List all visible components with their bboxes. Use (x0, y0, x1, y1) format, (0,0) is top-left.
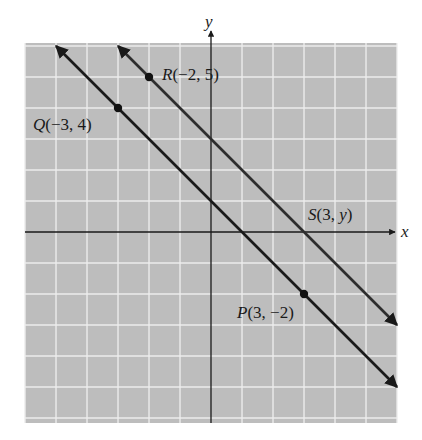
point-label-s-coords-open: (3, (317, 205, 340, 224)
point-label-q: Q(−3, 4) (33, 115, 92, 134)
point-label-p-coords: (3, −2) (247, 303, 293, 322)
point-label-p-letter: P (236, 303, 247, 322)
point-r-dot (145, 73, 153, 81)
point-label-r-letter: R (161, 65, 173, 84)
x-axis-label: x (400, 222, 409, 241)
point-q-dot (114, 104, 122, 112)
point-label-p: P(3, −2) (236, 303, 294, 322)
point-label-s: S(3, y) (308, 205, 352, 224)
point-label-q-letter: Q (33, 115, 45, 134)
y-axis-label: y (203, 12, 213, 31)
point-label-r-coords: (−2, 5) (172, 65, 218, 84)
point-p-dot (300, 290, 308, 298)
point-label-s-coords-close: ) (347, 205, 353, 224)
point-label-q-coords: (−3, 4) (45, 115, 91, 134)
point-label-r: R(−2, 5) (161, 65, 219, 84)
coordinate-plane-figure: x y R(−2, 5) Q(−3, 4) P(3, −2) S(3, y) (0, 0, 422, 440)
point-label-s-coords-var: y (337, 205, 347, 224)
